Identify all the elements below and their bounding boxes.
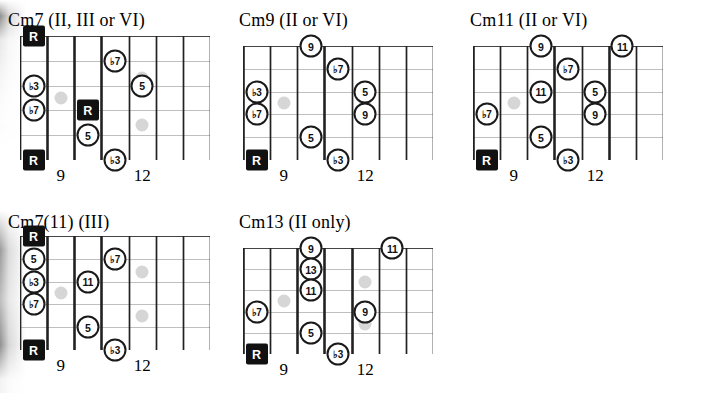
fretboard-grid: ♭3♭7R95♭7♭359 [243,46,433,160]
interval-note-marker: ♭3 [104,149,127,172]
interval-note-marker: ♭3 [557,149,580,172]
fret-number: 9 [279,166,288,186]
interval-note-marker: ♭3 [104,339,127,362]
interval-note-marker: 9 [354,300,377,323]
interval-note-marker: 5 [22,247,45,270]
interval-note-marker: ♭3 [327,149,350,172]
interval-note-marker: ♭7 [327,57,350,80]
ghost-note-dot [136,266,149,279]
interval-note-marker: ♭7 [245,300,268,323]
interval-note-marker: 9 [299,237,322,260]
root-note-marker: R [246,344,268,365]
interval-note-marker: 9 [529,35,552,58]
fretboard-grid: R5♭3♭7R115♭7♭3 [20,236,210,350]
ghost-note-dot [136,119,149,132]
root-note-marker: R [476,150,498,171]
interval-note-marker: 5 [299,321,322,344]
interval-note-marker: ♭7 [557,57,580,80]
ghost-note-dot [277,295,290,308]
ghost-note-dot [359,275,372,288]
interval-note-marker: ♭3 [22,270,45,293]
interval-note-marker: ♭7 [245,103,268,126]
ghost-note-dot [507,97,520,110]
fret-number: 12 [134,166,151,186]
interval-note-marker: 13 [299,258,322,281]
interval-note-marker: 5 [584,80,607,103]
interval-note-marker: 11 [529,80,552,103]
interval-note-marker: 5 [76,316,99,339]
root-note-marker: R [23,26,45,47]
ghost-note-dot [54,287,67,300]
root-note-marker: R [23,340,45,361]
chord-title: Cm13 (II only) [239,212,351,232]
interval-note-marker: ♭3 [245,80,268,103]
interval-note-marker: ♭7 [22,99,45,122]
fret-number: 12 [134,356,151,376]
interval-note-marker: ♭7 [104,247,127,270]
interval-note-marker: 11 [381,237,404,260]
interval-note-marker: 5 [76,124,99,147]
fret-number: 9 [279,360,288,380]
interval-note-marker: 5 [131,74,154,97]
interval-note-marker: 11 [611,35,634,58]
root-note-marker: R [77,100,99,121]
fretboard-grid: ♭7R9115♭7♭35911 [473,46,663,160]
interval-note-marker: 9 [354,103,377,126]
interval-note-marker: 9 [299,35,322,58]
root-note-marker: R [246,150,268,171]
fret-number: 12 [587,166,604,186]
interval-note-marker: 5 [529,126,552,149]
chord-title: Cm9 (II or VI) [239,10,348,30]
ghost-note-dot [277,97,290,110]
fret-number: 12 [357,166,374,186]
interval-note-marker: ♭3 [327,343,350,366]
fretboard-grid: ♭7R913115♭3911 [243,248,433,354]
fret-number: 12 [357,360,374,380]
chord-title: Cm11 (II or VI) [470,10,587,30]
ghost-note-dot [136,309,149,322]
ghost-note-dot [54,92,67,105]
chord-chart-page: Cm7 (II, III or VI)R♭3♭7RR5♭7♭35912Cm9 (… [0,0,707,393]
interval-note-marker: 5 [354,80,377,103]
fret-number: 9 [56,356,65,376]
fret-number: 9 [56,166,65,186]
interval-note-marker: 11 [76,270,99,293]
interval-note-marker: ♭7 [475,103,498,126]
interval-note-marker: 9 [584,103,607,126]
interval-note-marker: ♭7 [22,293,45,316]
interval-note-marker: ♭7 [104,49,127,72]
fretboard-grid: R♭3♭7RR5♭7♭35 [20,36,210,160]
root-note-marker: R [23,226,45,247]
interval-note-marker: 11 [299,279,322,302]
interval-note-marker: ♭3 [22,74,45,97]
interval-note-marker: 5 [299,126,322,149]
root-note-marker: R [23,150,45,171]
fret-number: 9 [509,166,518,186]
fretboard-lines [243,248,433,354]
